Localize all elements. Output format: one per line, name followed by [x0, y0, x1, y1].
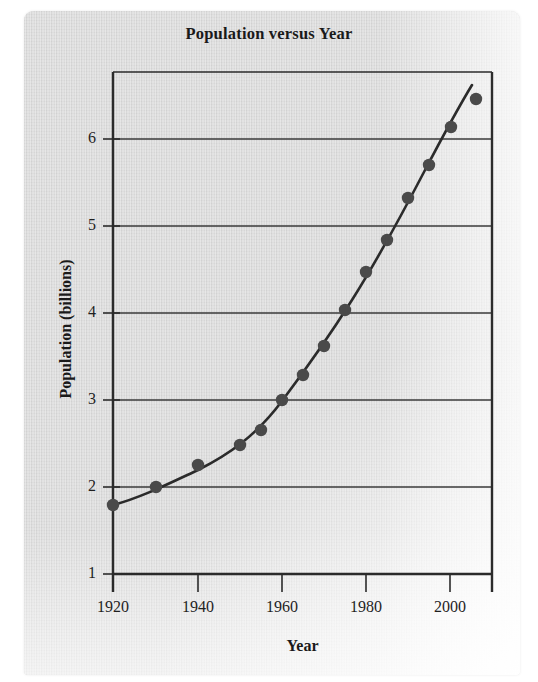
y-tick-label: 6: [62, 129, 96, 147]
y-axis-title: Population (billions): [57, 199, 75, 459]
data-point-markers: [107, 93, 482, 511]
y-tick-label: 1: [62, 564, 96, 582]
y-tick-label: 2: [62, 477, 96, 495]
x-tick-label: 1980: [336, 598, 396, 616]
x-tick-label: 2000: [420, 598, 480, 616]
x-tick-label: 1960: [252, 598, 312, 616]
x-axis-ticks: [113, 574, 450, 592]
gridlines: [113, 139, 492, 487]
x-tick-label: 1940: [168, 598, 228, 616]
fitted-curve: [113, 85, 472, 505]
x-axis-title: Year: [113, 637, 492, 655]
x-tick-label: 1920: [83, 598, 143, 616]
